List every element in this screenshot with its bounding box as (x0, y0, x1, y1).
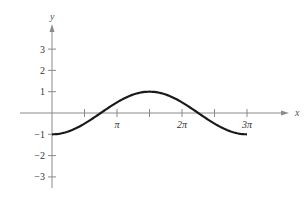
axes (20, 24, 289, 188)
x-axis-arrow-icon (281, 111, 289, 116)
y-tick-label: 3 (40, 44, 45, 55)
y-tick-label: 1 (40, 86, 45, 97)
x-tick-label: π (114, 119, 120, 130)
x-tick-label: 2π (177, 119, 188, 130)
y-axis-label: y (49, 11, 55, 22)
y-tick-label: −2 (34, 150, 45, 161)
function-plot: π2π3π321−1−2−3 x y (0, 0, 306, 199)
y-axis-arrow-icon (50, 24, 55, 32)
y-tick-label: −1 (34, 129, 45, 140)
x-axis-label: x (294, 107, 300, 118)
x-tick-label: 3π (241, 119, 253, 130)
y-tick-label: −3 (34, 171, 45, 182)
y-tick-label: 2 (40, 65, 45, 76)
